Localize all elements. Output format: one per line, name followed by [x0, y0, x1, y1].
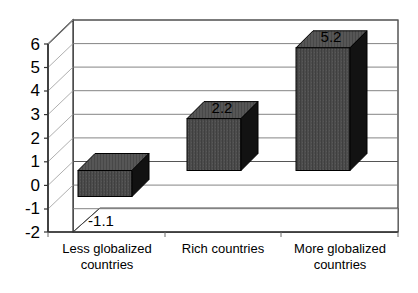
y-tick-label: 0: [31, 176, 40, 195]
category-label-0-line1: Less globalized: [62, 241, 152, 256]
plot-floor: [73, 208, 398, 232]
data-label-bar-0: -1.1: [88, 212, 114, 229]
y-tick-label: 3: [31, 105, 40, 124]
bar-front-face: [78, 171, 132, 197]
bar-front-face: [296, 48, 350, 171]
y-tick-label: 6: [31, 35, 40, 54]
y-tick-label: -1: [25, 199, 40, 218]
x-axis: [48, 232, 398, 237]
data-label-bar-2: 5.2: [321, 28, 342, 45]
y-axis-tick-labels: 6 5 4 3 2 1 0 -1 -2: [25, 35, 40, 242]
y-tick-label: 2: [31, 129, 40, 148]
bar-front-face: [187, 119, 241, 171]
x-axis-category-labels: Less globalized countries Rich countries…: [62, 241, 386, 272]
y-tick-label: 4: [31, 81, 40, 100]
bar-series-2[interactable]: [296, 31, 367, 171]
category-label-2-line1: More globalized: [294, 241, 386, 256]
category-label-0-line2: countries: [81, 257, 134, 272]
bar-chart-3d: 6 5 4 3 2 1 0 -1 -2: [0, 0, 418, 293]
bar-side-face: [350, 31, 367, 171]
category-label-1-line1: Rich countries: [182, 241, 265, 256]
bar-series-0[interactable]: [78, 154, 149, 197]
chart-container: 6 5 4 3 2 1 0 -1 -2: [0, 0, 418, 293]
y-axis: [44, 44, 48, 232]
y-tick-label: 1: [31, 152, 40, 171]
y-tick-label: -2: [25, 223, 40, 242]
y-tick-label: 5: [31, 58, 40, 77]
category-label-2-line2: countries: [314, 257, 367, 272]
data-label-bar-1: 2.2: [212, 99, 233, 116]
